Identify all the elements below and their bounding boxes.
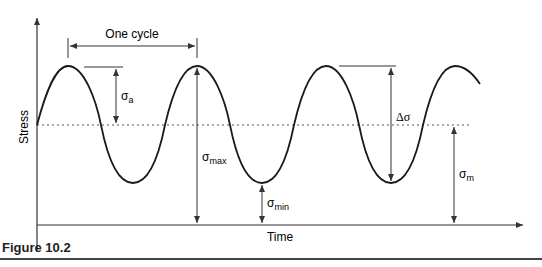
cyclic-stress-diagram: One cycle σa σmax σmin Δσ σm Stress Time xyxy=(0,0,542,267)
x-axis-label: Time xyxy=(267,230,294,244)
sigma-a-label: σa xyxy=(121,89,133,105)
delta-sigma-label: Δσ xyxy=(396,110,411,124)
cycle-label: One cycle xyxy=(105,27,159,41)
y-axis-label: Stress xyxy=(17,110,31,144)
sigma-min-label: σmin xyxy=(267,196,289,212)
figure-caption: Figure 10.2 xyxy=(2,240,71,255)
sigma-m-label: σm xyxy=(459,167,474,183)
caption-rule xyxy=(0,258,542,260)
sigma-max-label: σmax xyxy=(202,150,227,166)
